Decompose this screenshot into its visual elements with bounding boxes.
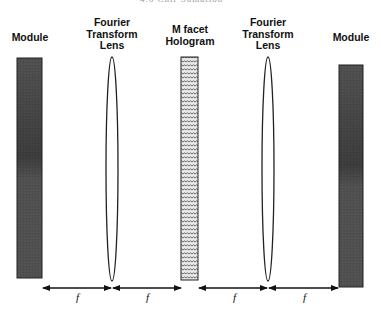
focal-length-label-3: f — [233, 291, 238, 303]
focal-length-label-1: f — [76, 291, 81, 303]
fourier-lens-1 — [106, 57, 118, 281]
fourier-lens-2 — [262, 57, 274, 281]
focal-length-label-4: f — [303, 291, 308, 303]
focal-length-label-2: f — [146, 291, 151, 303]
optical-diagram: f f f f — [0, 0, 381, 321]
right-module — [339, 65, 363, 287]
left-module — [17, 58, 42, 278]
m-facet-hologram — [181, 57, 198, 280]
